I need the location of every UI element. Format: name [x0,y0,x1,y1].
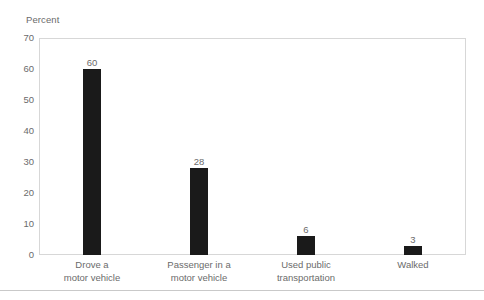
category-label-2: Used public transportation [246,258,366,284]
category-label-1: Passenger in a motor vehicle [139,258,259,284]
y-tick-70: 70 [4,33,34,43]
category-label-3: Walked [353,258,473,271]
bottom-divider [0,290,484,291]
bars-layer: 60 28 6 3 [39,38,466,255]
bar-value-3: 3 [410,234,415,245]
bar-group-1: 28 [146,38,252,255]
y-tick-60: 60 [4,64,34,74]
category-label-1-line2: motor vehicle [139,271,259,284]
y-tick-30: 30 [4,157,34,167]
bar-3[interactable] [404,246,422,255]
category-label-3-line1: Walked [397,259,428,270]
category-label-1-line1: Passenger in a [167,259,230,270]
y-tick-20: 20 [4,188,34,198]
category-label-0: Drove a motor vehicle [32,258,152,284]
bar-group-0: 60 [39,38,145,255]
bar-value-1: 28 [194,156,205,167]
bar-group-2: 6 [253,38,359,255]
y-tick-40: 40 [4,126,34,136]
y-axis-title: Percent [26,14,59,25]
x-axis-category-labels: Drove a motor vehicle Passenger in a mot… [39,258,466,292]
bar-value-0: 60 [87,57,98,68]
bar-chart-figure: Percent 70 60 50 40 30 20 10 0 60 28 6 3 [0,0,484,300]
category-label-0-line2: motor vehicle [32,271,152,284]
bar-1[interactable] [190,168,208,255]
y-tick-0: 0 [4,250,34,260]
y-axis-tick-labels: 70 60 50 40 30 20 10 0 [0,38,34,255]
bar-value-2: 6 [303,224,308,235]
y-tick-50: 50 [4,95,34,105]
bar-2[interactable] [297,236,315,255]
bar-0[interactable] [83,69,101,255]
category-label-2-line1: Used public [281,259,331,270]
bar-group-3: 3 [360,38,466,255]
category-label-0-line1: Drove a [75,259,108,270]
y-tick-10: 10 [4,219,34,229]
category-label-2-line2: transportation [246,271,366,284]
